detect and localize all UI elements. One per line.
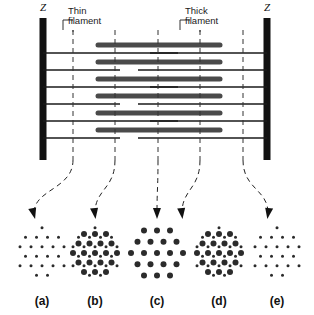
thin-filament-dot	[46, 255, 49, 258]
thick-filament-dot	[76, 260, 82, 266]
thin-filament-dot	[94, 245, 97, 248]
thick-filament-dot	[161, 239, 167, 245]
thick-filament-dot	[233, 260, 239, 266]
thin-filament-dot	[281, 255, 284, 258]
thick-filament-dot	[148, 239, 154, 245]
thin-filament-dot	[265, 264, 268, 267]
thin-filament-dot	[41, 226, 44, 229]
thin-filament-dot	[35, 236, 38, 239]
thick-filament-dot	[174, 239, 180, 245]
arrow-to-b	[95, 160, 115, 213]
thin-filament-dot	[254, 245, 257, 248]
thin-filament-dot	[234, 236, 237, 239]
thick-filament-dot	[205, 231, 211, 237]
thin-filament-dot	[41, 245, 44, 248]
thick-filament-dot	[128, 250, 134, 256]
thin-filament-label: Thin filament	[68, 6, 101, 27]
thick-filament-dot	[141, 273, 147, 279]
thin-filament-dot	[212, 236, 215, 239]
thick-filament-dot	[216, 269, 222, 275]
thick-filament-dot	[227, 269, 233, 275]
sarcomere-figure	[0, 0, 314, 315]
cross-section-d	[194, 226, 244, 277]
thin-filament-dot	[229, 264, 232, 267]
thin-filament-dot	[77, 236, 80, 239]
thin-filament-dot	[276, 226, 279, 229]
thin-filament-dot	[52, 264, 55, 267]
thick-filament-dot	[92, 231, 98, 237]
thick-filament-dot	[70, 250, 76, 256]
thick-filament-dot	[200, 240, 206, 246]
thick-filament-dot	[227, 250, 233, 256]
thick-filament-dot	[200, 260, 206, 266]
thin-filament-dot	[207, 264, 210, 267]
thin-filament-dot	[207, 245, 210, 248]
thick-filament-dot	[222, 240, 228, 246]
thin-filament-dot	[259, 255, 262, 258]
thin-filament-dot	[223, 274, 226, 277]
thin-filament-dot	[196, 245, 199, 248]
thin-filament-dot	[24, 236, 27, 239]
thin-filament-dot	[270, 255, 273, 258]
thin-filament-dot	[287, 264, 290, 267]
thick-filament-dot	[135, 261, 141, 267]
thin-filament-dot	[223, 236, 226, 239]
arrow-to-a	[34, 160, 73, 213]
z-disc-label-right: Z	[264, 2, 270, 14]
thin-filament-dot	[99, 255, 102, 258]
thick-filament-dot	[135, 239, 141, 245]
thin-filament-dot	[19, 245, 22, 248]
thin-filament-dot	[218, 245, 221, 248]
arrow-to-e-head	[264, 208, 273, 220]
cross-section-a	[19, 226, 66, 277]
thick-filament-dot	[205, 269, 211, 275]
thick-filament-dot	[109, 260, 115, 266]
thick-filament-dot	[98, 240, 104, 246]
thick-filament-dot	[167, 227, 173, 233]
thin-filament-dot	[94, 264, 97, 267]
thin-filament-dot	[116, 245, 119, 248]
thin-filament-dot	[276, 245, 279, 248]
thick-filament-dot	[103, 269, 109, 275]
arrow-to-d-head	[177, 208, 186, 220]
thin-filament-dot	[298, 245, 301, 248]
thin-filament-dot	[254, 264, 257, 267]
thin-filament-dot	[57, 236, 60, 239]
thick-filament-dot	[194, 250, 200, 256]
thick-filament-dot	[211, 260, 217, 266]
thick-filament-dot	[211, 240, 217, 246]
thin-filament-dot	[41, 264, 44, 267]
thin-filament-dot	[292, 255, 295, 258]
thick-filament-dot	[167, 273, 173, 279]
thin-filament-dot	[72, 264, 75, 267]
thin-filament-dot	[83, 264, 86, 267]
panel-label-c: (c)	[137, 295, 177, 308]
thick-filament-dot	[216, 250, 222, 256]
arrow-to-e	[243, 160, 268, 213]
thin-filament-dot	[63, 245, 66, 248]
thin-filament-dot	[201, 236, 204, 239]
cross-section-b	[70, 226, 120, 277]
thin-filament-dot	[234, 255, 237, 258]
cross-section-e	[254, 226, 301, 277]
thick-filament-dot	[141, 250, 147, 256]
thick-filament-label: Thick filament	[185, 6, 218, 27]
thin-filament-dot	[52, 245, 55, 248]
thick-filament-dot	[167, 250, 173, 256]
thick-filament-dot	[76, 240, 82, 246]
thin-filament-dot	[35, 274, 38, 277]
thick-filament-dot	[81, 231, 87, 237]
thick-filament-dot	[92, 269, 98, 275]
panel-label-b: (b)	[75, 295, 115, 308]
thin-filament-dot	[99, 236, 102, 239]
thin-filament-dot	[105, 245, 108, 248]
thin-filament-dot	[212, 255, 215, 258]
thick-filament-dot	[87, 260, 93, 266]
thin-filament-dot	[94, 226, 97, 229]
thin-filament-dot	[99, 274, 102, 277]
thin-filament-dot	[292, 236, 295, 239]
thin-filament-dot	[229, 245, 232, 248]
thick-filament-dot	[81, 269, 87, 275]
thick-filament-dot	[148, 261, 154, 267]
panel-label-e: (e)	[257, 295, 297, 308]
